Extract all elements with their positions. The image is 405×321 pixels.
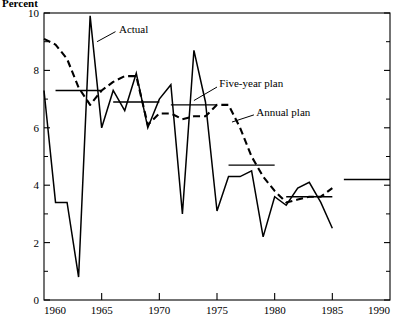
x-tick-label: 1980	[264, 304, 287, 316]
chart-root: Percent 02468101960196519701975198019851…	[0, 0, 405, 321]
x-tick-label: 1970	[148, 304, 171, 316]
series-annual-plan	[44, 39, 332, 203]
x-tick-label: 1990	[368, 304, 391, 316]
x-tick-label: 1985	[321, 304, 344, 316]
series-actual	[44, 16, 332, 277]
y-tick-label: 0	[34, 294, 40, 306]
plot-frame	[44, 13, 390, 300]
y-tick-label: 6	[34, 122, 40, 134]
annotation-leader-line	[194, 87, 217, 100]
x-tick-label: 1975	[206, 304, 229, 316]
annotation-label-0: Actual	[119, 23, 148, 35]
annotation-label-1: Five-year plan	[219, 77, 283, 89]
annotation-label-2: Annual plan	[256, 106, 311, 118]
x-tick-label: 1965	[91, 304, 114, 316]
y-tick-label: 2	[34, 237, 40, 249]
y-tick-label: 10	[28, 7, 40, 19]
y-tick-label: 4	[34, 179, 40, 191]
x-tick-label: 1960	[44, 304, 67, 316]
line-chart: 02468101960196519701975198019851990Actua…	[0, 0, 405, 321]
y-tick-label: 8	[34, 64, 40, 76]
annotation-leader-line	[97, 32, 115, 42]
